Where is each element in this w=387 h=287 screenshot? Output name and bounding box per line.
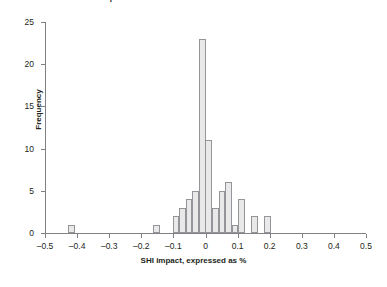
x-tick-label: –0.2 bbox=[126, 241, 156, 251]
x-tick-label: –0.5 bbox=[30, 241, 60, 251]
y-tick-label: 15 bbox=[8, 101, 34, 111]
x-tick-mark bbox=[238, 234, 239, 238]
histogram-bar bbox=[173, 216, 180, 233]
x-tick-label: 0.4 bbox=[319, 241, 349, 251]
y-tick-label: 10 bbox=[8, 144, 34, 154]
x-tick-label: 0.2 bbox=[255, 241, 285, 251]
x-tick-mark bbox=[77, 234, 78, 238]
histogram-bar bbox=[153, 225, 160, 233]
y-tick-label: 20 bbox=[8, 59, 34, 69]
y-tick-label: 0 bbox=[8, 228, 34, 238]
histogram-chart: p-value estimates from DiNo in DiNo Mode… bbox=[0, 0, 387, 287]
histogram-bar bbox=[238, 199, 245, 233]
x-tick-mark bbox=[270, 234, 271, 238]
x-tick-label: –0.4 bbox=[62, 241, 92, 251]
histogram-bar bbox=[192, 191, 199, 233]
x-tick-mark bbox=[109, 234, 110, 238]
x-tick-label: 0.5 bbox=[351, 241, 381, 251]
histogram-bar bbox=[251, 216, 258, 233]
x-axis-label: SHI impact, expressed as % bbox=[0, 256, 387, 265]
x-tick-mark bbox=[45, 234, 46, 238]
chart-title: p-value estimates from DiNo in DiNo Mode… bbox=[0, 0, 387, 2]
x-tick-label: 0.3 bbox=[287, 241, 317, 251]
y-axis-label: Frequency bbox=[34, 50, 43, 170]
bars-container bbox=[45, 22, 366, 233]
x-tick-label: –0.3 bbox=[94, 241, 124, 251]
y-tick-label: 25 bbox=[8, 17, 34, 27]
histogram-bar bbox=[264, 216, 271, 233]
histogram-bar bbox=[68, 225, 75, 233]
x-tick-mark bbox=[141, 234, 142, 238]
x-tick-mark bbox=[206, 234, 207, 238]
x-tick-mark bbox=[334, 234, 335, 238]
x-tick-label: –0.1 bbox=[158, 241, 188, 251]
x-tick-mark bbox=[173, 234, 174, 238]
histogram-bar bbox=[205, 140, 212, 233]
x-tick-label: 0 bbox=[191, 241, 221, 251]
y-tick-label: 5 bbox=[8, 186, 34, 196]
x-tick-mark bbox=[366, 234, 367, 238]
histogram-bar bbox=[225, 182, 232, 233]
x-tick-label: 0.1 bbox=[223, 241, 253, 251]
x-tick-mark bbox=[302, 234, 303, 238]
